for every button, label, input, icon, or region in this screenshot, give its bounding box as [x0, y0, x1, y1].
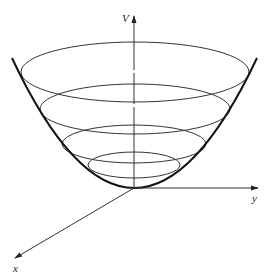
paraboloid-diagram: V y x: [0, 0, 272, 275]
level-ellipses: [21, 42, 249, 178]
x-axis: [15, 188, 134, 258]
v-axis-label: V: [122, 12, 130, 24]
x-axis-label: x: [12, 262, 18, 274]
level-ellipse-2: [40, 84, 230, 134]
level-ellipse-1: [21, 42, 249, 102]
y-axis-label: y: [251, 192, 257, 204]
